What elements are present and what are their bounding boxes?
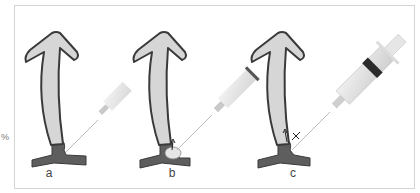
- follicle-icon: [26, 32, 79, 145]
- panel-label-b: b: [162, 166, 182, 180]
- syringe-icon: [96, 82, 132, 118]
- syringe-icon: [209, 66, 259, 116]
- panel-label-c: c: [283, 166, 303, 180]
- syringe-icon: [323, 27, 413, 117]
- follicle-icon: [134, 32, 187, 145]
- diagram-canvas: [0, 0, 420, 193]
- panel-c: [252, 27, 414, 168]
- follicle-icon: [252, 32, 305, 145]
- panel-label-a: a: [39, 166, 59, 180]
- panel-b: [134, 32, 260, 168]
- panel-a: [26, 32, 132, 167]
